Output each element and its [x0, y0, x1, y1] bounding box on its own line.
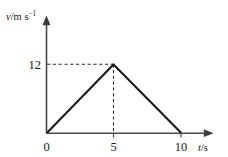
x-axis-arrow-icon: [204, 129, 214, 137]
y-axis-title: v/m s−1: [6, 10, 37, 22]
x-axis-title: t/s: [198, 142, 208, 153]
y-tick-label-12: 12: [29, 58, 42, 72]
x-tick-label-5: 5: [110, 140, 116, 154]
velocity-time-line: [47, 65, 182, 134]
y-axis-arrow-icon: [43, 16, 51, 26]
velocity-time-graph: v/m s−1 t/s 12 0 5 10: [0, 0, 228, 157]
x-tick-label-10: 10: [175, 140, 188, 154]
graph-canvas: v/m s−1 t/s 12 0 5 10: [0, 0, 228, 157]
x-tick-label-0: 0: [43, 140, 49, 154]
